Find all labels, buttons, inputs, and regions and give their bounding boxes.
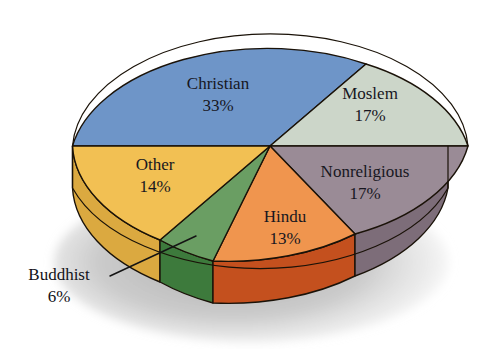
pie-chart-svg: Christian 33% Moslem 17% Nonreligious 17… [0,0,483,349]
label-christian: Christian [187,74,250,93]
value-buddhist: 6% [48,287,71,306]
value-hindu: 13% [269,229,300,248]
label-nonreligious: Nonreligious [321,162,410,181]
value-other: 14% [139,177,170,196]
value-christian: 33% [202,96,233,115]
value-nonreligious: 17% [349,184,380,203]
label-other: Other [136,155,175,174]
label-buddhist: Buddhist [28,265,90,284]
value-moslem: 17% [354,106,385,125]
label-moslem: Moslem [342,84,398,103]
pie-chart-figure: Christian 33% Moslem 17% Nonreligious 17… [0,0,483,349]
label-hindu: Hindu [264,207,307,226]
